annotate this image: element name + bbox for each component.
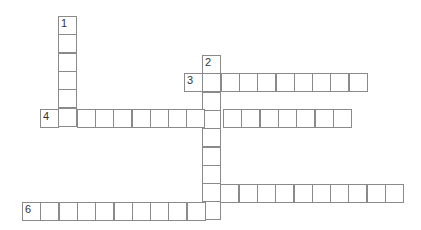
crossword-cell[interactable]: 3 <box>184 73 203 92</box>
crossword-cell[interactable] <box>294 184 313 203</box>
crossword-cell[interactable] <box>349 73 368 92</box>
crossword-cell[interactable] <box>58 34 77 53</box>
crossword-cell[interactable] <box>114 202 133 221</box>
clue-number-2: 2 <box>205 56 211 68</box>
clue-number-1: 1 <box>61 17 67 29</box>
crossword-cell[interactable] <box>202 147 221 166</box>
crossword-cell[interactable] <box>77 109 96 128</box>
crossword-cell[interactable] <box>220 184 239 203</box>
crossword-cell[interactable] <box>58 108 77 127</box>
crossword-cell[interactable] <box>40 202 59 221</box>
crossword-cell[interactable] <box>294 73 313 92</box>
crossword-cell[interactable] <box>276 73 295 92</box>
crossword-cell[interactable] <box>239 184 258 203</box>
crossword-cell[interactable] <box>59 202 78 221</box>
crossword-cell[interactable] <box>168 202 187 221</box>
crossword-cell[interactable] <box>202 183 221 202</box>
crossword-cell[interactable]: 6 <box>22 202 41 221</box>
crossword-cell[interactable] <box>187 202 206 221</box>
crossword-cell[interactable] <box>58 71 77 90</box>
crossword-cell[interactable] <box>278 109 297 128</box>
clue-number-3: 3 <box>187 74 193 86</box>
crossword-cell[interactable] <box>202 128 221 147</box>
crossword-cell[interactable] <box>223 109 242 128</box>
crossword-cell[interactable] <box>315 109 334 128</box>
crossword-cell[interactable] <box>330 73 349 92</box>
crossword-cell[interactable] <box>312 73 331 92</box>
clue-number-6: 6 <box>25 203 31 215</box>
crossword-cell[interactable] <box>367 184 386 203</box>
crossword-cell[interactable] <box>275 184 294 203</box>
crossword-cell[interactable] <box>132 109 151 128</box>
crossword-cell[interactable] <box>186 109 205 128</box>
crossword-cell[interactable] <box>221 73 240 92</box>
crossword-cell[interactable] <box>348 184 367 203</box>
crossword-cell[interactable] <box>330 184 349 203</box>
crossword-cell[interactable] <box>202 73 221 92</box>
crossword-cell[interactable] <box>312 184 331 203</box>
crossword-cell[interactable] <box>95 202 114 221</box>
crossword-cell[interactable] <box>95 109 114 128</box>
crossword-cell[interactable] <box>257 73 276 92</box>
crossword-cell[interactable] <box>241 109 260 128</box>
crossword-cell[interactable] <box>333 109 352 128</box>
crossword-cell[interactable] <box>150 109 169 128</box>
crossword-cell[interactable]: 2 <box>202 55 221 74</box>
crossword-cell[interactable] <box>113 109 132 128</box>
crossword-cell[interactable] <box>296 109 315 128</box>
crossword-cell[interactable] <box>132 202 151 221</box>
clue-number-4: 4 <box>43 110 49 122</box>
crossword-cell[interactable] <box>385 184 404 203</box>
crossword-grid: 12346 <box>0 0 421 230</box>
crossword-cell[interactable] <box>58 53 77 72</box>
crossword-cell[interactable] <box>77 202 96 221</box>
crossword-cell[interactable] <box>202 165 221 184</box>
crossword-cell[interactable]: 1 <box>58 16 77 35</box>
crossword-cell[interactable] <box>257 184 276 203</box>
crossword-cell[interactable] <box>260 109 279 128</box>
crossword-cell[interactable] <box>58 89 77 108</box>
crossword-cell[interactable] <box>239 73 258 92</box>
crossword-cell[interactable]: 4 <box>40 109 59 128</box>
crossword-cell[interactable] <box>150 202 169 221</box>
crossword-cell[interactable] <box>168 109 187 128</box>
